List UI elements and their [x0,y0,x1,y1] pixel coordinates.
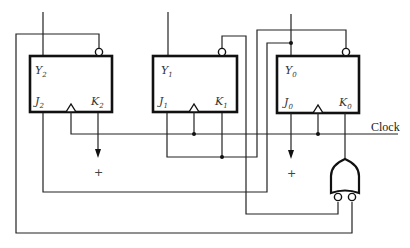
j0-arrow-icon [288,150,294,159]
or-gate [331,159,359,201]
jk1-junction [220,155,224,159]
k2-plus-label: + [94,166,103,179]
or-input-bubble-right [348,193,355,200]
k2-arrow-icon [95,149,101,158]
ff0-clock-junction [316,132,320,136]
ff0-inverted-output-bubble [342,48,349,55]
jk-flip-flop-circuit: Y2 J2 K2 + Y1 J1 K1 Y0 J0 [0,0,410,248]
j0-plus-label: + [287,167,296,180]
flip-flop-0: Y0 J0 K0 + [277,14,359,180]
ff1-inverted-output-bubble [218,48,225,55]
or-gate-body [331,159,359,193]
clock-label: Clock [371,120,400,134]
ff1-clock-junction [192,132,196,136]
or-input-bubble-left [334,193,341,200]
ff2-clock-wire [71,112,398,134]
ff2-inverted-output-bubble [95,48,102,55]
y0-junction [289,41,293,45]
